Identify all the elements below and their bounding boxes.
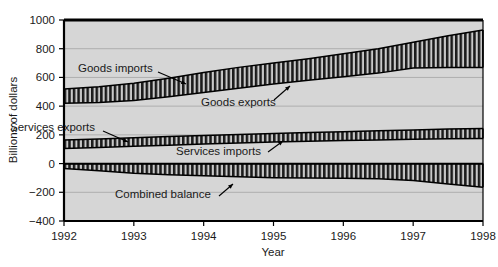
y-tick-label: 800 xyxy=(36,43,55,55)
x-tick-label: 1997 xyxy=(400,230,426,242)
x-tick-label: 1994 xyxy=(191,230,217,242)
x-tick-label: 1993 xyxy=(121,230,147,242)
chart-figure: 10008006004002000−200−400 19921993199419… xyxy=(0,0,498,267)
y-tick-label: 0 xyxy=(49,158,55,170)
x-tick-label: 1992 xyxy=(51,230,77,242)
combined-balance-label-text: Combined balance xyxy=(115,188,211,200)
services-exports-label-text: Services exports xyxy=(10,121,95,133)
y-tick-label: 600 xyxy=(36,71,55,83)
y-tick-label: 1000 xyxy=(29,14,55,26)
y-tick-label: −200 xyxy=(29,186,55,198)
x-tick-label: 1995 xyxy=(261,230,287,242)
services-imports-label-text: Services imports xyxy=(176,145,261,157)
y-tick-label: 400 xyxy=(36,100,55,112)
goods-exports-label-text: Goods exports xyxy=(201,96,276,108)
goods-imports-label-text: Goods imports xyxy=(78,62,153,74)
x-tick-label: 1998 xyxy=(470,230,496,242)
y-tick-label: −400 xyxy=(29,215,55,227)
y-axis-title: Billions of dollars xyxy=(7,77,19,164)
x-tick-label: 1996 xyxy=(331,230,357,242)
trade-balance-area-chart: 10008006004002000−200−400 19921993199419… xyxy=(0,0,498,267)
x-axis-title: Year xyxy=(261,246,284,258)
